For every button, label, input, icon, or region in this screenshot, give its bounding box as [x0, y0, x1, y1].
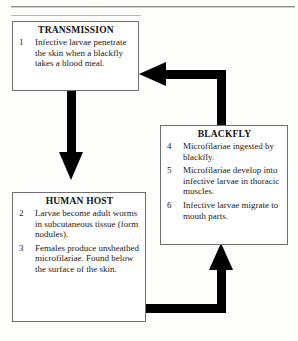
arrow-transmission-to-human-host-shaft: [67, 91, 76, 154]
list-item-number: 5: [167, 165, 177, 176]
list-item-text: Larvae become adult worms in subcutaneou…: [35, 208, 140, 240]
arrow-human-host-to-blackfly-vertical: [217, 268, 226, 313]
list-item-text: Microfilariae develop into infective lar…: [183, 165, 282, 197]
list-item: 2 Larvae become adult worms in subcutane…: [19, 208, 140, 240]
list-item-number: 1: [19, 37, 29, 48]
horizontal-rule-stub: [11, 15, 141, 16]
box-blackfly-items: 4 Microfilariae ingested by blackfly. 5 …: [167, 141, 282, 221]
box-blackfly-title: BLACKFLY: [167, 129, 282, 140]
box-human-host-title: HUMAN HOST: [19, 196, 140, 207]
list-item-text: Infective larvae penetrate the skin when…: [35, 37, 133, 69]
scan-artifact-top: ' . . .: [4, 0, 124, 4]
list-item: 4 Microfilariae ingested by blackfly.: [167, 141, 282, 162]
box-transmission-items: 1 Infective larvae penetrate the skin wh…: [19, 37, 133, 69]
list-item: 3 Females produce unsheathed microfilari…: [19, 243, 140, 275]
arrow-human-host-to-blackfly-horizontal: [146, 304, 226, 313]
arrow-blackfly-to-transmission-horizontal: [165, 70, 226, 79]
arrow-blackfly-to-transmission-head: [139, 62, 166, 86]
box-blackfly: BLACKFLY 4 Microfilariae ingested by bla…: [160, 125, 288, 245]
box-transmission: TRANSMISSION 1 Infective larvae penetrat…: [12, 21, 139, 91]
list-item: 6 Infective larvae migrate to mouth part…: [167, 200, 282, 221]
horizontal-rule-top-shadow: [11, 7, 295, 8]
diagram-page: ' . . . TRANSMISSION 1 Infective larvae …: [0, 0, 298, 341]
list-item-text: Infective larvae migrate to mouth parts.: [183, 200, 282, 221]
list-item-number: 2: [19, 208, 29, 219]
list-item: 5 Microfilariae develop into infective l…: [167, 165, 282, 197]
list-item: 1 Infective larvae penetrate the skin wh…: [19, 37, 133, 69]
list-item-number: 4: [167, 141, 177, 152]
arrow-human-host-to-blackfly-head: [209, 243, 233, 270]
scan-artifact-text: ' . . .: [4, 0, 38, 2]
list-item-number: 3: [19, 243, 29, 254]
arrow-transmission-to-human-host-head: [59, 152, 83, 180]
box-human-host-items: 2 Larvae become adult worms in subcutane…: [19, 208, 140, 275]
list-item-text: Microfilariae ingested by blackfly.: [183, 141, 282, 162]
box-human-host: HUMAN HOST 2 Larvae become adult worms i…: [12, 192, 146, 322]
list-item-text: Females produce unsheathed microfilariae…: [35, 243, 140, 275]
box-transmission-title: TRANSMISSION: [19, 25, 133, 36]
list-item-number: 6: [167, 200, 177, 211]
